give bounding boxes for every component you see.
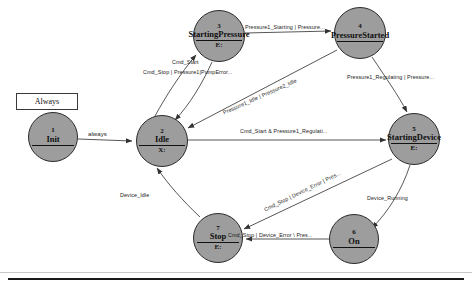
state-node-init[interactable]: 1 Init — [28, 112, 78, 162]
state-label: StartingDevice — [387, 133, 441, 142]
state-divider — [32, 145, 74, 146]
state-diagram-canvas: Always 1 Init 2 Idle X: 3 StartingPressu… — [0, 0, 472, 291]
state-variable: X: — [158, 147, 165, 154]
edge-init-to-idle — [78, 139, 132, 141]
transition-label-cmd-start: Cmd_Start — [172, 59, 199, 65]
state-label: Idle — [155, 135, 169, 144]
transition-label-cmd-stop-pressure1-pumperror: Cmd_Stop | Pressure1|PumpError... — [143, 69, 232, 75]
state-variable: E: — [216, 42, 223, 49]
state-divider — [333, 247, 375, 248]
state-label: StartingPressure — [188, 30, 249, 39]
state-node-startingdevice[interactable]: 5 StartingDevice E: — [388, 113, 440, 165]
state-node-on[interactable]: 6 On — [329, 214, 379, 264]
transition-label-device-running: Device_Running — [367, 195, 408, 201]
always-box: Always — [16, 93, 78, 110]
edge-stop-to-idle — [157, 168, 200, 217]
page-bottom-rule — [8, 278, 464, 280]
state-node-pressurestarted[interactable]: 4 PressureStarted — [334, 7, 386, 59]
edge-startingpressure-to-pressurestarted — [245, 31, 331, 33]
always-box-label: Always — [35, 97, 59, 106]
edge-pressurestarted-to-idle — [188, 50, 337, 128]
state-variable: E: — [411, 145, 418, 152]
transition-label-pressure1-regulating: Pressure1_Regulating | Pressure... — [347, 74, 434, 80]
state-node-startingpressure[interactable]: 3 StartingPressure E: — [193, 10, 245, 62]
state-node-idle[interactable]: 2 Idle X: — [136, 115, 188, 167]
state-label: On — [348, 237, 359, 246]
state-label: Init — [46, 135, 59, 144]
state-label: PressureStarted — [331, 31, 389, 40]
state-label: Stop — [210, 232, 227, 241]
edge-pressurestarted-to-startingdevice — [372, 57, 407, 112]
transition-label-always: always — [88, 131, 107, 137]
transition-label-device-idle: Device_Idle — [120, 192, 149, 198]
state-variable: E: — [215, 244, 222, 251]
edge-startingdevice-to-stop — [244, 159, 392, 229]
state-divider — [337, 41, 383, 42]
transition-label-cmd-stop-device-error-backslash-pres: Cmd_Stop | Device_Error \ Pres... — [228, 232, 313, 238]
transition-label-pressure1-starting: Pressure1_Starting | Pressure... — [245, 24, 325, 30]
page-top-rule — [0, 272, 472, 273]
state-node-stop[interactable]: 7 Stop E: — [193, 213, 243, 263]
transition-label-cmd-start-and-pressure1-regulating: Cmd_Start & Pressure1_Regulati... — [240, 128, 328, 134]
